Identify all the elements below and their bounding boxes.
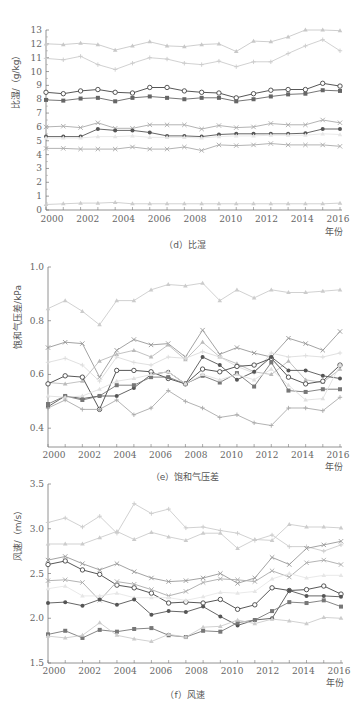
y-tick-label: 7 bbox=[36, 108, 42, 118]
square-marker bbox=[269, 360, 273, 364]
open-circle-marker bbox=[182, 89, 186, 93]
y-tick-label: 0.8 bbox=[30, 316, 45, 326]
y-tick-label: 3.5 bbox=[30, 479, 45, 489]
square-marker bbox=[132, 383, 136, 387]
x-tick-label: 2010 bbox=[221, 666, 244, 676]
square-marker bbox=[338, 387, 342, 391]
dot-marker bbox=[46, 601, 50, 605]
square-marker bbox=[98, 628, 102, 632]
plus-marker bbox=[46, 360, 50, 364]
x-tick-label: 2016 bbox=[327, 214, 350, 224]
x-tick-label: 2000 bbox=[41, 214, 64, 224]
open-circle-marker bbox=[115, 368, 119, 372]
open-circle-marker bbox=[96, 87, 100, 91]
plus-marker bbox=[235, 531, 239, 535]
y-tick-label: 12 bbox=[31, 39, 42, 49]
series-s5 bbox=[44, 118, 342, 131]
triangle-marker bbox=[338, 201, 343, 205]
open-circle-marker bbox=[235, 364, 239, 368]
triangle-marker bbox=[200, 340, 205, 344]
triangle-marker bbox=[253, 589, 258, 593]
square-marker bbox=[304, 390, 308, 394]
chart-caption: （f）风速 bbox=[165, 690, 204, 700]
dot-marker bbox=[235, 378, 239, 382]
open-circle-marker bbox=[61, 91, 65, 95]
open-circle-marker bbox=[63, 374, 67, 378]
open-circle-marker bbox=[218, 597, 222, 601]
series-line bbox=[48, 504, 341, 551]
dot-marker bbox=[63, 600, 67, 604]
square-marker bbox=[96, 96, 100, 100]
plus-marker bbox=[80, 407, 84, 411]
x-marker bbox=[200, 328, 204, 332]
plus-marker bbox=[269, 60, 273, 64]
series-s8 bbox=[46, 598, 343, 640]
open-circle-marker bbox=[286, 375, 290, 379]
y-tick-label: 2 bbox=[36, 177, 42, 187]
x-tick-label: 2002 bbox=[78, 666, 101, 676]
y-tick-label: 1 bbox=[36, 191, 42, 201]
open-circle-marker bbox=[338, 84, 342, 88]
square-marker bbox=[322, 598, 326, 602]
x-tick-label: 2000 bbox=[43, 666, 66, 676]
series-s5 bbox=[46, 356, 342, 411]
series-s3 bbox=[46, 539, 343, 585]
open-circle-marker bbox=[251, 91, 255, 95]
square-marker bbox=[200, 96, 204, 100]
open-circle-marker bbox=[303, 87, 307, 91]
dot-marker bbox=[218, 363, 222, 367]
plus-marker bbox=[132, 501, 136, 505]
square-marker bbox=[166, 375, 170, 379]
series-line bbox=[46, 30, 340, 52]
plus-marker bbox=[218, 415, 222, 419]
square-marker bbox=[286, 92, 290, 96]
chart-caption: （e）饱和气压差 bbox=[151, 471, 220, 482]
triangle-marker bbox=[147, 39, 152, 43]
x-tick-label: 2012 bbox=[255, 214, 278, 224]
plus-marker bbox=[270, 533, 274, 537]
dot-marker bbox=[115, 394, 119, 398]
open-circle-marker bbox=[218, 370, 222, 374]
x-tick-label: 2004 bbox=[114, 666, 137, 676]
square-marker bbox=[305, 601, 309, 605]
x-tick-label: 2002 bbox=[76, 214, 99, 224]
plus-marker bbox=[234, 64, 238, 68]
square-marker bbox=[321, 88, 325, 92]
open-circle-marker bbox=[80, 375, 84, 379]
axis-lines bbox=[48, 484, 343, 663]
plus-marker bbox=[78, 54, 82, 58]
square-marker bbox=[338, 89, 342, 93]
series-line bbox=[48, 524, 341, 548]
series-s4 bbox=[46, 349, 342, 383]
plus-marker bbox=[303, 44, 307, 48]
y-tick-label: 3.0 bbox=[30, 524, 45, 534]
series-s3 bbox=[44, 81, 342, 100]
triangle-marker bbox=[80, 633, 85, 637]
open-circle-marker bbox=[113, 90, 117, 94]
plus-marker bbox=[149, 363, 153, 367]
chart-panel-f: 1.52.02.53.03.52000200220042006200820102… bbox=[13, 479, 351, 700]
triangle-marker bbox=[200, 281, 205, 285]
open-circle-marker bbox=[200, 367, 204, 371]
x-tick-label: 2008 bbox=[184, 214, 207, 224]
series-line bbox=[48, 358, 340, 409]
open-circle-marker bbox=[199, 90, 203, 94]
open-circle-marker bbox=[78, 89, 82, 93]
square-marker bbox=[201, 629, 205, 633]
open-circle-marker bbox=[303, 382, 307, 386]
triangle-marker bbox=[235, 287, 240, 291]
plus-marker bbox=[338, 49, 342, 53]
plus-marker bbox=[252, 421, 256, 425]
open-circle-marker bbox=[252, 363, 256, 367]
plus-marker bbox=[217, 59, 221, 63]
triangle-marker bbox=[235, 618, 240, 622]
square-marker bbox=[218, 630, 222, 634]
square-marker bbox=[79, 97, 83, 101]
dot-marker bbox=[287, 589, 291, 593]
triangle-marker bbox=[321, 615, 326, 619]
square-marker bbox=[46, 402, 50, 406]
y-tick-label: 9 bbox=[36, 80, 42, 90]
plus-marker bbox=[321, 37, 325, 41]
plus-marker bbox=[132, 360, 136, 364]
plus-marker bbox=[96, 62, 100, 66]
